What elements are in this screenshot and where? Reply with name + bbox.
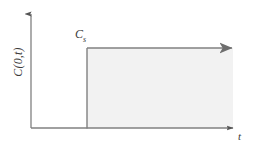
plateau-label-subscript: s — [83, 35, 86, 44]
figure-canvas — [0, 0, 254, 147]
plateau-label-base: C — [75, 27, 83, 41]
plateau-value-label: Cs — [75, 28, 86, 43]
concentration-step-figure: C(0,t) Cs t — [0, 0, 254, 147]
shaded-region — [87, 48, 233, 128]
y-axis-label: C(0,t) — [12, 32, 24, 92]
x-axis-label: t — [238, 131, 241, 142]
